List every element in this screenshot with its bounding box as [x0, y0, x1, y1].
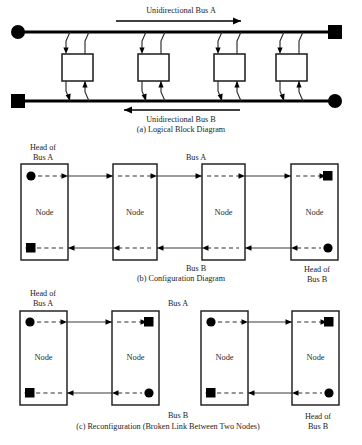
panel-c-node-4-bottom-marker-circle-icon	[324, 388, 333, 397]
panel-c-bus-b-label: Bus B	[168, 411, 189, 420]
panel-b-head-of-bus-b-label-line1: Head of	[304, 265, 330, 274]
panel-b-node-2-label: Node	[126, 208, 144, 217]
panel-b-node-4-top-marker-square-icon	[323, 171, 333, 181]
panel-b-caption: (b) Configuration Diagram	[137, 274, 226, 283]
panel-b-node-3: Node	[202, 164, 245, 260]
panel-c-node-1: Node	[20, 311, 67, 405]
panel-b-head-of-bus-a-label-line2: Bus A	[33, 153, 53, 162]
panel-c-node-2: Node	[112, 311, 159, 405]
panel-c-head-of-bus-b-label-line2: Bus B	[308, 422, 329, 431]
panel-a-node-4	[276, 32, 307, 101]
panel-b-bus-a-links	[68, 173, 291, 178]
panel-c-bus-a-label: Bus A	[168, 299, 188, 308]
panel-a-terminator-top-right-square-icon	[328, 25, 342, 39]
panel-c-segment-1-links	[67, 319, 112, 395]
panel-c-node-3-top-marker-circle-icon	[206, 317, 215, 326]
panel-c-node-4: Node	[292, 311, 339, 405]
panel-b-node-1-top-marker-circle-icon	[26, 171, 35, 180]
panel-c-node-1-label: Node	[34, 353, 52, 362]
panel-c-reconfiguration-diagram: Head of Bus A Bus A Node	[20, 289, 339, 431]
panel-c-node-3-label: Node	[215, 353, 233, 362]
panel-b-node-3-label: Node	[214, 208, 232, 217]
panel-c-head-of-bus-a-label-line1: Head of	[30, 289, 56, 298]
panel-b-bus-a-label: Bus A	[186, 153, 206, 162]
panel-a-node-3	[214, 32, 245, 101]
panel-b-node-4-label: Node	[305, 208, 323, 217]
panel-a-bus-b-label: Unidirectional Bus B	[146, 115, 216, 124]
panel-c-node-2-label: Node	[126, 353, 144, 362]
panel-c-node-2-top-marker-square-icon	[144, 317, 154, 327]
dual-bus-network-figure: Unidirectional Bus A	[0, 0, 362, 445]
panel-a-bus-a-label: Unidirectional Bus A	[146, 6, 216, 15]
panel-c-node-3: Node	[201, 311, 248, 405]
panel-b-bus-b-links	[68, 245, 291, 250]
panel-a-terminator-bottom-left-square-icon	[11, 94, 25, 108]
panel-b-node-1: Node	[21, 164, 68, 260]
panel-b-node-4: Node	[291, 164, 338, 260]
panel-a-logical-block-diagram: Unidirectional Bus A	[11, 6, 342, 134]
panel-a-node-2	[138, 32, 169, 101]
panel-c-node-4-top-marker-square-icon	[324, 317, 334, 327]
panel-a-terminator-bottom-right-circle-icon	[328, 94, 342, 108]
panel-c-node-1-top-marker-circle-icon	[25, 317, 34, 326]
panel-b-configuration-diagram: Head of Bus A Bus A	[21, 143, 338, 284]
panel-a-bus-a-direction-arrow	[116, 18, 241, 25]
panel-c-segment-1: Node Node	[20, 311, 159, 405]
panel-b-node-1-label: Node	[35, 208, 53, 217]
panel-b-node-2: Node	[113, 164, 157, 260]
panel-c-node-2-bottom-marker-circle-icon	[144, 388, 153, 397]
panel-c-head-of-bus-b-label-line1: Head of	[305, 412, 331, 421]
panel-c-segment-2: Node Node	[201, 311, 339, 405]
panel-b-head-of-bus-b-label-line2: Bus B	[307, 275, 328, 284]
panel-c-segment-2-links	[248, 319, 292, 395]
panel-c-node-4-label: Node	[306, 353, 324, 362]
panel-c-caption: (c) Reconfiguration (Broken Link Between…	[76, 422, 260, 431]
panel-a-node-1	[62, 32, 93, 101]
panel-a-caption: (a) Logical Block Diagram	[137, 125, 226, 134]
panel-b-head-of-bus-a-label-line1: Head of	[30, 143, 56, 152]
panel-c-head-of-bus-a-label-line2: Bus A	[33, 299, 53, 308]
panel-a-terminator-top-left-circle-icon	[11, 25, 25, 39]
panel-b-bus-b-label: Bus B	[186, 264, 207, 273]
panel-b-node-4-bottom-marker-circle-icon	[323, 243, 332, 252]
panel-a-bus-b-direction-arrow	[124, 107, 240, 114]
